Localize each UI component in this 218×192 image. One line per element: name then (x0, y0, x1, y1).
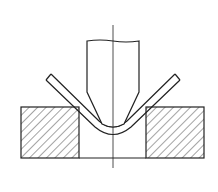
die-right (146, 107, 204, 158)
v-bending-diagram (0, 0, 218, 192)
die-left (21, 107, 79, 158)
